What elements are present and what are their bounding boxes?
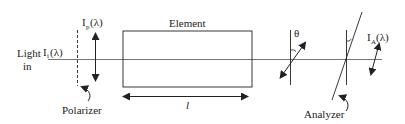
- input-intensity-label: I i (λ): [43, 46, 63, 60]
- element-box: [123, 31, 252, 87]
- polarizer-pointer-arrow: [82, 87, 90, 101]
- angle-arc: [291, 50, 297, 52]
- light-in-label-line2: in: [23, 60, 32, 72]
- svg-text:i: i: [47, 52, 49, 60]
- rotated-polarization-arrow: [283, 43, 305, 74]
- analyzed-intensity-label: I A (λ): [367, 31, 389, 46]
- polarizer-label: Polarizer: [62, 104, 102, 116]
- svg-text:(λ): (λ): [90, 16, 103, 29]
- light-in-label: Light: [17, 47, 41, 59]
- length-label: l: [186, 99, 189, 111]
- optical-setup-diagram: Light in I i (λ) Polarizer I p (λ) Eleme…: [0, 0, 405, 124]
- svg-text:(λ): (λ): [50, 46, 63, 59]
- element-label: Element: [169, 17, 206, 29]
- analyzer-plate: [332, 12, 362, 100]
- analyzer-angle-arc: [347, 39, 352, 41]
- svg-text:(λ): (λ): [376, 31, 389, 44]
- analyzed-polarization-arrow: [371, 48, 378, 74]
- polarized-intensity-label: I p (λ): [82, 16, 103, 31]
- analyzer-label: Analyzer: [304, 108, 345, 120]
- angle-theta-label: θ: [294, 27, 299, 39]
